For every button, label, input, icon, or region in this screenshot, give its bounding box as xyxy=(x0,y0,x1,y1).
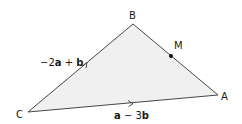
vertex-label-b: B xyxy=(129,10,136,21)
vector-label-ca: a − 3b xyxy=(114,110,149,121)
vector-label-cb: −2a + b xyxy=(40,57,83,68)
triangle-abc xyxy=(28,24,218,112)
triangle-diagram: B C A M −2a + b a − 3b xyxy=(0,0,242,124)
point-m xyxy=(169,54,173,58)
vertex-label-c: C xyxy=(16,109,23,120)
vertex-label-a: A xyxy=(221,91,228,102)
point-label-m: M xyxy=(174,40,183,51)
